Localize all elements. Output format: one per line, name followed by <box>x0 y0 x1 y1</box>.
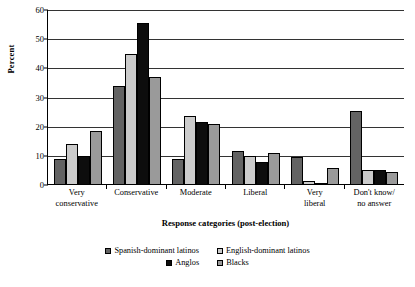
y-axis-title: Percent <box>6 29 16 89</box>
y-tick-label: 50 <box>36 35 45 44</box>
legend-label: Anglos <box>175 258 199 267</box>
bar <box>66 144 78 185</box>
bar <box>303 181 315 185</box>
x-axis-tick-labels: VeryconservativeConservative Moderate Li… <box>47 188 404 209</box>
bar <box>172 159 184 185</box>
bar <box>327 168 339 186</box>
bar-group <box>226 10 285 185</box>
legend-label: Spanish-dominant latinos <box>114 246 199 255</box>
x-tick-label: Veryliberal <box>285 188 345 209</box>
bar <box>268 153 280 185</box>
bar <box>386 172 398 185</box>
legend-item: Spanish-dominant latinos <box>105 246 199 255</box>
legend-label: English-dominant latinos <box>226 246 310 255</box>
bar <box>256 162 268 185</box>
bar <box>362 170 374 185</box>
bar-group <box>285 10 344 185</box>
legend-item: English-dominant latinos <box>217 246 310 255</box>
x-tick-label: Conservative <box>107 188 167 209</box>
bar-groups <box>48 10 404 185</box>
bar-group <box>107 10 166 185</box>
x-tick-label: Liberal <box>226 188 286 209</box>
chart-figure: Percent 0102030405060 VeryconservativeCo… <box>0 0 415 287</box>
bar <box>125 54 137 185</box>
bar-group <box>48 10 107 185</box>
y-tick-label: 60 <box>36 6 45 15</box>
bar <box>90 131 102 185</box>
bar <box>208 124 220 185</box>
legend-row-1: Spanish-dominant latinosEnglish-dominant… <box>0 246 415 255</box>
bar <box>315 183 327 185</box>
x-tick-label: Moderate <box>166 188 226 209</box>
y-tick-label: 30 <box>36 93 45 102</box>
x-axis-title: Response categories (post-election) <box>47 218 404 228</box>
bar <box>196 122 208 185</box>
legend-swatch-icon <box>217 248 223 254</box>
y-tick-label: 20 <box>36 122 45 131</box>
plot-area: 0102030405060 <box>47 10 404 185</box>
x-tick-label: Don't know/no answer <box>345 188 405 209</box>
bar <box>137 23 149 185</box>
legend-swatch-icon <box>166 260 172 266</box>
bar <box>149 77 161 185</box>
bar <box>232 151 244 185</box>
bar-group <box>345 10 404 185</box>
bar <box>78 156 90 185</box>
legend: Spanish-dominant latinosEnglish-dominant… <box>0 246 415 270</box>
bar <box>374 170 386 185</box>
y-tick-label: 10 <box>36 152 45 161</box>
bar <box>291 157 303 185</box>
legend-swatch-icon <box>105 248 111 254</box>
bar <box>113 86 125 185</box>
bar-group <box>167 10 226 185</box>
legend-label: Blacks <box>226 258 249 267</box>
legend-item: Anglos <box>166 258 199 267</box>
bar <box>54 159 66 185</box>
legend-row-2: AnglosBlacks <box>0 258 415 267</box>
bar <box>244 156 256 185</box>
y-tick-label: 40 <box>36 64 45 73</box>
x-tick-label: Veryconservative <box>47 188 107 209</box>
legend-item: Blacks <box>217 258 249 267</box>
bar <box>350 111 362 185</box>
legend-swatch-icon <box>217 260 223 266</box>
y-tick-label: 0 <box>40 181 44 190</box>
bar <box>184 116 196 185</box>
